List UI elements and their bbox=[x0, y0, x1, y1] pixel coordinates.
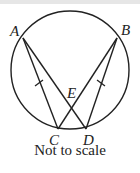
label-e: E bbox=[66, 85, 76, 101]
segment-ac bbox=[23, 38, 58, 129]
label-b: B bbox=[121, 22, 130, 38]
caption: Not to scale bbox=[0, 142, 140, 159]
label-a: A bbox=[9, 23, 20, 39]
